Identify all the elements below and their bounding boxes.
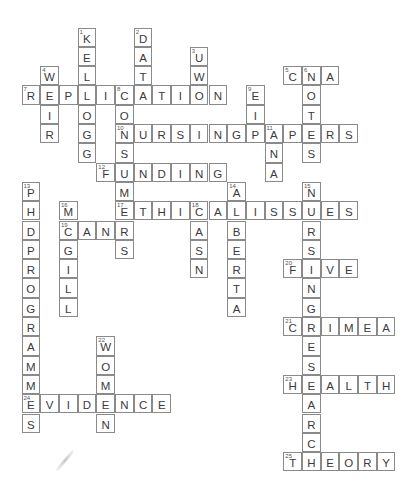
crossword-cell[interactable]: I (321, 317, 340, 336)
crossword-cell[interactable]: R (302, 414, 321, 433)
crossword-cell[interactable]: E (302, 124, 321, 143)
crossword-cell[interactable]: N (190, 163, 209, 182)
crossword-cell[interactable]: O (190, 85, 209, 104)
crossword-cell[interactable]: O (302, 85, 321, 104)
crossword-cell[interactable]: G (227, 124, 246, 143)
crossword-cell[interactable]: N (96, 414, 115, 433)
crossword-cell[interactable]: S (190, 240, 209, 259)
crossword-cell[interactable]: S (302, 240, 321, 259)
crossword-cell[interactable]: 18C (190, 201, 209, 220)
crossword-cell[interactable]: G (209, 163, 228, 182)
crossword-cell[interactable]: A (78, 221, 97, 240)
crossword-cell[interactable]: T (134, 201, 153, 220)
crossword-cell[interactable]: 6N (302, 66, 321, 85)
crossword-cell[interactable]: E (227, 240, 246, 259)
crossword-cell[interactable]: Y (377, 452, 396, 471)
crossword-cell[interactable]: 3U (190, 47, 209, 66)
crossword-cell[interactable]: 7R (22, 85, 41, 104)
crossword-cell[interactable]: E (152, 394, 171, 413)
crossword-cell[interactable]: N (209, 85, 228, 104)
crossword-cell[interactable]: S (115, 143, 134, 162)
crossword-cell[interactable]: R (115, 221, 134, 240)
crossword-cell[interactable]: I (59, 394, 78, 413)
crossword-cell[interactable]: L (227, 201, 246, 220)
crossword-cell[interactable]: V (40, 394, 59, 413)
crossword-cell[interactable]: G (78, 143, 97, 162)
crossword-cell[interactable]: S (339, 124, 358, 143)
crossword-cell[interactable]: U (302, 201, 321, 220)
crossword-cell[interactable]: T (152, 85, 171, 104)
crossword-cell[interactable]: 16M (59, 201, 78, 220)
crossword-cell[interactable]: E (339, 259, 358, 278)
crossword-cell[interactable]: N (134, 163, 153, 182)
crossword-cell[interactable]: 22W (96, 336, 115, 355)
crossword-cell[interactable]: S (171, 124, 190, 143)
crossword-cell[interactable]: 8C (115, 85, 134, 104)
crossword-cell[interactable]: G (22, 298, 41, 317)
crossword-cell[interactable]: O (22, 278, 41, 297)
crossword-cell[interactable]: R (22, 259, 41, 278)
crossword-cell[interactable]: 24E (22, 394, 41, 413)
crossword-cell[interactable]: M (339, 317, 358, 336)
crossword-cell[interactable]: E (321, 452, 340, 471)
crossword-cell[interactable]: I (171, 163, 190, 182)
crossword-cell[interactable]: G (302, 298, 321, 317)
crossword-cell[interactable]: E (358, 317, 377, 336)
crossword-cell[interactable]: E (321, 201, 340, 220)
crossword-cell[interactable]: H (377, 375, 396, 394)
crossword-cell[interactable]: A (321, 66, 340, 85)
crossword-cell[interactable]: 13P (22, 182, 41, 201)
crossword-cell[interactable]: G (59, 240, 78, 259)
crossword-cell[interactable]: E (40, 85, 59, 104)
crossword-cell[interactable]: M (96, 375, 115, 394)
crossword-cell[interactable]: A (22, 336, 41, 355)
crossword-cell[interactable]: 1K (78, 28, 97, 47)
crossword-cell[interactable]: L (339, 375, 358, 394)
crossword-cell[interactable]: 5C (283, 66, 302, 85)
crossword-cell[interactable]: N (209, 124, 228, 143)
crossword-cell[interactable]: T (358, 375, 377, 394)
crossword-cell[interactable]: N (190, 259, 209, 278)
crossword-cell[interactable]: 10N (115, 124, 134, 143)
crossword-cell[interactable]: R (22, 317, 41, 336)
crossword-cell[interactable]: A (209, 201, 228, 220)
crossword-cell[interactable]: W (190, 66, 209, 85)
crossword-cell[interactable]: E (96, 394, 115, 413)
crossword-cell[interactable]: L (78, 85, 97, 104)
crossword-cell[interactable]: 2D (134, 28, 153, 47)
crossword-cell[interactable]: O (339, 452, 358, 471)
crossword-cell[interactable]: S (22, 414, 41, 433)
crossword-cell[interactable]: S (339, 201, 358, 220)
crossword-cell[interactable]: H (302, 452, 321, 471)
crossword-cell[interactable]: U (134, 124, 153, 143)
crossword-cell[interactable]: 4W (40, 66, 59, 85)
crossword-cell[interactable]: G (78, 124, 97, 143)
crossword-cell[interactable]: 14A (227, 182, 246, 201)
crossword-cell[interactable]: V (321, 259, 340, 278)
crossword-cell[interactable]: O (96, 356, 115, 375)
crossword-cell[interactable]: A (134, 47, 153, 66)
crossword-cell[interactable]: A (227, 298, 246, 317)
crossword-cell[interactable]: O (115, 105, 134, 124)
crossword-cell[interactable]: P (283, 124, 302, 143)
crossword-cell[interactable]: S (265, 201, 284, 220)
crossword-cell[interactable]: 20F (283, 259, 302, 278)
crossword-cell[interactable]: P (59, 85, 78, 104)
crossword-cell[interactable]: E (78, 47, 97, 66)
crossword-cell[interactable]: 12F (96, 163, 115, 182)
crossword-cell[interactable]: R (40, 124, 59, 143)
crossword-cell[interactable]: N (96, 221, 115, 240)
crossword-cell[interactable]: E (302, 336, 321, 355)
crossword-cell[interactable]: R (358, 452, 377, 471)
crossword-cell[interactable]: 9E (246, 85, 265, 104)
crossword-cell[interactable]: 21C (283, 317, 302, 336)
crossword-cell[interactable]: S (115, 240, 134, 259)
crossword-cell[interactable]: H (152, 201, 171, 220)
crossword-cell[interactable]: I (190, 124, 209, 143)
crossword-cell[interactable]: R (152, 124, 171, 143)
crossword-cell[interactable]: L (59, 278, 78, 297)
crossword-cell[interactable]: E (302, 375, 321, 394)
crossword-cell[interactable]: S (302, 356, 321, 375)
crossword-cell[interactable]: A (302, 394, 321, 413)
crossword-cell[interactable]: A (134, 85, 153, 104)
